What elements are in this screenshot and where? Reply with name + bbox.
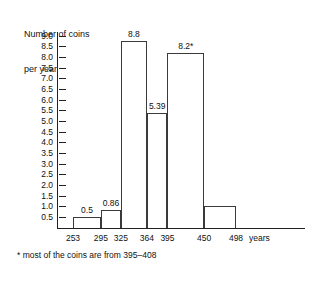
y-axis-tick: 7.5 xyxy=(18,63,66,74)
y-axis-tick-label: 3.5 xyxy=(41,148,53,159)
x-axis-tick-label: 295 xyxy=(94,233,108,244)
y-axis-tick: 8.5 xyxy=(18,41,66,52)
x-axis-tick-label: 498 xyxy=(229,233,243,244)
y-axis-tick-label: 9.0 xyxy=(41,31,53,42)
y-axis-tick-label: 2.0 xyxy=(41,180,53,191)
y-axis-tick: 6.0 xyxy=(18,95,66,106)
y-axis-tick-label: 5.0 xyxy=(41,116,53,127)
y-axis-tick-mark xyxy=(59,78,66,79)
bar-value-label: 5.39 xyxy=(149,101,166,111)
y-axis-tick-mark xyxy=(59,57,66,58)
y-axis-tick-mark xyxy=(59,121,66,122)
y-axis-tick-label: 4.5 xyxy=(41,127,53,138)
x-axis-tick-label: 253 xyxy=(66,233,80,244)
y-axis-tick-mark xyxy=(59,153,66,154)
plot-area: 9.08.58.07.57.06.56.05.55.04.54.03.53.02… xyxy=(0,0,313,283)
x-axis-unit-label: years xyxy=(249,233,270,244)
y-axis-tick-mark xyxy=(59,217,66,218)
bar-value-label: 8.2* xyxy=(178,41,193,51)
bar-value-label: 0.5 xyxy=(81,205,93,215)
y-axis-tick-label: 4.0 xyxy=(41,137,53,148)
x-axis-tick-label: 450 xyxy=(197,233,211,244)
y-axis-tick: 2.5 xyxy=(18,169,66,180)
x-axis-line xyxy=(57,228,305,229)
y-axis-tick: 5.0 xyxy=(18,116,66,127)
y-axis-tick-label: 1.5 xyxy=(41,191,53,202)
y-axis-tick-label: 2.5 xyxy=(41,169,53,180)
y-axis-tick-mark xyxy=(59,100,66,101)
y-axis-tick: 9.0 xyxy=(18,31,66,42)
y-axis-tick-mark xyxy=(59,132,66,133)
histogram-bar xyxy=(147,113,168,228)
y-axis-tick-label: 6.5 xyxy=(41,84,53,95)
bar-value-label: 0.86 xyxy=(103,198,120,208)
y-axis-tick-mark xyxy=(59,68,66,69)
y-axis-tick: 6.5 xyxy=(18,84,66,95)
chart-footnote: * most of the coins are from 395–408 xyxy=(17,250,156,261)
histogram-bar xyxy=(73,217,101,228)
histogram-bar xyxy=(204,206,236,228)
y-axis-tick: 8.0 xyxy=(18,52,66,63)
y-axis-tick-label: 1.0 xyxy=(41,201,53,212)
histogram-bar xyxy=(167,53,204,228)
y-axis-tick: 3.5 xyxy=(18,148,66,159)
x-axis-tick-label: 364 xyxy=(140,233,154,244)
y-axis-tick: 5.5 xyxy=(18,105,66,116)
y-axis-tick-mark xyxy=(59,142,66,143)
x-axis-tick-label: 395 xyxy=(160,233,174,244)
y-axis-tick-mark xyxy=(59,46,66,47)
y-axis-tick-label: 8.5 xyxy=(41,41,53,52)
y-axis-tick-mark xyxy=(59,174,66,175)
y-axis-tick-mark xyxy=(59,185,66,186)
y-axis-tick-mark xyxy=(59,110,66,111)
y-axis-tick: 2.0 xyxy=(18,180,66,191)
y-axis-tick: 0.5 xyxy=(18,212,66,223)
y-axis-tick-mark xyxy=(59,196,66,197)
y-axis-tick-mark xyxy=(59,89,66,90)
y-axis-tick: 3.0 xyxy=(18,159,66,170)
y-axis-tick: 1.5 xyxy=(18,191,66,202)
y-axis-tick-mark xyxy=(59,206,66,207)
y-axis-tick-label: 7.0 xyxy=(41,73,53,84)
histogram-bar xyxy=(101,210,121,228)
y-axis-tick-mark xyxy=(59,36,66,37)
histogram-bar xyxy=(121,41,147,228)
y-axis-tick: 7.0 xyxy=(18,73,66,84)
bar-value-label: 8.8 xyxy=(128,29,140,39)
y-axis-tick-label: 0.5 xyxy=(41,212,53,223)
x-axis-tick-label: 325 xyxy=(114,233,128,244)
y-axis-tick-label: 6.0 xyxy=(41,95,53,106)
y-axis-tick: 1.0 xyxy=(18,201,66,212)
y-axis-tick-label: 3.0 xyxy=(41,159,53,170)
y-axis-tick: 4.5 xyxy=(18,127,66,138)
y-axis-tick-mark xyxy=(59,164,66,165)
y-axis-tick-label: 8.0 xyxy=(41,52,53,63)
y-axis-tick-label: 5.5 xyxy=(41,105,53,116)
y-axis-tick-label: 7.5 xyxy=(41,63,53,74)
y-axis-tick: 4.0 xyxy=(18,137,66,148)
